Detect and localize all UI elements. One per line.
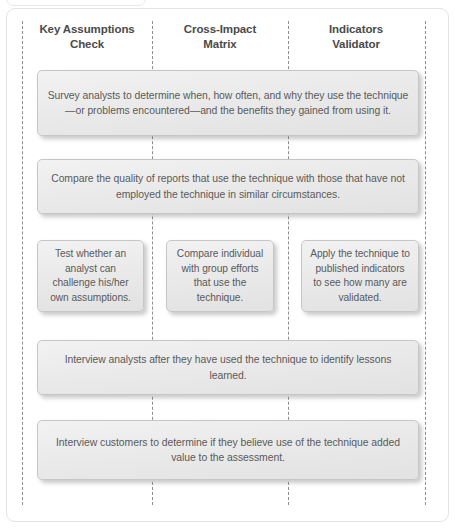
column-header-indicators-validator: Indicators Validator bbox=[296, 22, 416, 51]
column-header-line1: Cross-Impact bbox=[160, 22, 280, 37]
process-box-interview-analysts[interactable]: Interview analysts after they have used … bbox=[37, 340, 419, 395]
column-header-cross-impact-matrix: Cross-Impact Matrix bbox=[160, 22, 280, 51]
column-header-line1: Indicators bbox=[296, 22, 416, 37]
process-box-compare-quality[interactable]: Compare the quality of reports that use … bbox=[37, 159, 419, 214]
process-box-interview-customers[interactable]: Interview customers to determine if they… bbox=[37, 420, 419, 480]
column-header-line2: Validator bbox=[296, 37, 416, 52]
process-box-text: Survey analysts to determine when, how o… bbox=[46, 88, 410, 119]
process-box-text: Interview customers to determine if they… bbox=[46, 435, 410, 466]
column-header-line2: Check bbox=[27, 37, 147, 52]
process-box-text: Test whether an analyst can challenge hi… bbox=[46, 247, 135, 305]
column-divider-left bbox=[22, 21, 23, 505]
process-box-text: Compare the quality of reports that use … bbox=[46, 171, 410, 202]
process-box-text: Compare individual with group efforts th… bbox=[175, 247, 265, 305]
column-header-key-assumptions-check: Key Assumptions Check bbox=[27, 22, 147, 51]
column-header-line1: Key Assumptions bbox=[27, 22, 147, 37]
column-divider-right bbox=[425, 21, 426, 505]
process-box-cross-impact-cell[interactable]: Compare individual with group efforts th… bbox=[166, 240, 274, 312]
process-box-text: Interview analysts after they have used … bbox=[46, 352, 410, 383]
process-box-text: Apply the technique to published indicat… bbox=[310, 247, 410, 305]
process-box-indicators-cell[interactable]: Apply the technique to published indicat… bbox=[301, 240, 419, 312]
column-header-line2: Matrix bbox=[160, 37, 280, 52]
process-box-survey-analysts[interactable]: Survey analysts to determine when, how o… bbox=[37, 70, 419, 136]
process-box-key-assumptions-cell[interactable]: Test whether an analyst can challenge hi… bbox=[37, 240, 144, 312]
diagram-root: Key Assumptions Check Cross-Impact Matri… bbox=[0, 0, 455, 532]
cropped-container-above bbox=[6, 0, 146, 6]
